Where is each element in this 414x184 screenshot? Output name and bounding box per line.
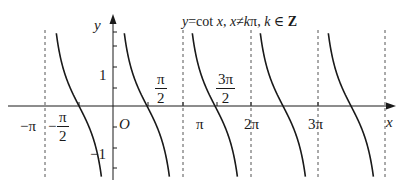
y-axis [110,14,117,180]
cot-branch [260,33,305,176]
y-axis-arrow-icon [110,14,117,24]
origin-label: O [119,117,130,132]
title-integers: Z [288,14,297,29]
x-tick-3pi: 3π [308,117,323,132]
y-tick-1: 1 [99,68,107,83]
title-neq: ≠ [236,14,244,29]
y-tick-neg-1: −1 [90,147,106,162]
cot-branch [328,33,373,176]
x-tick-neg-half-pi-sign: − [48,119,56,134]
y-ticks [113,32,117,168]
x-tick-three-half-pi: 3π 2 [216,72,235,106]
title-comma: , [223,14,230,29]
y-axis-label: y [94,18,101,33]
x-tick-neg-pi: −π [20,119,36,134]
title-eq: =cot [188,14,217,29]
title-in: ∈ [270,14,287,29]
x-tick-neg-half-pi: π 2 [57,110,69,144]
x-tick-half-pi: π 2 [155,72,167,106]
x-axis-label: x [386,115,393,130]
x-axis-arrow-icon [386,103,396,110]
graph-title: y=cot x, x≠kπ, k ∈ Z [182,15,297,29]
x-tick-2pi: 2π [244,117,259,132]
x-tick-pi: π [196,117,204,132]
